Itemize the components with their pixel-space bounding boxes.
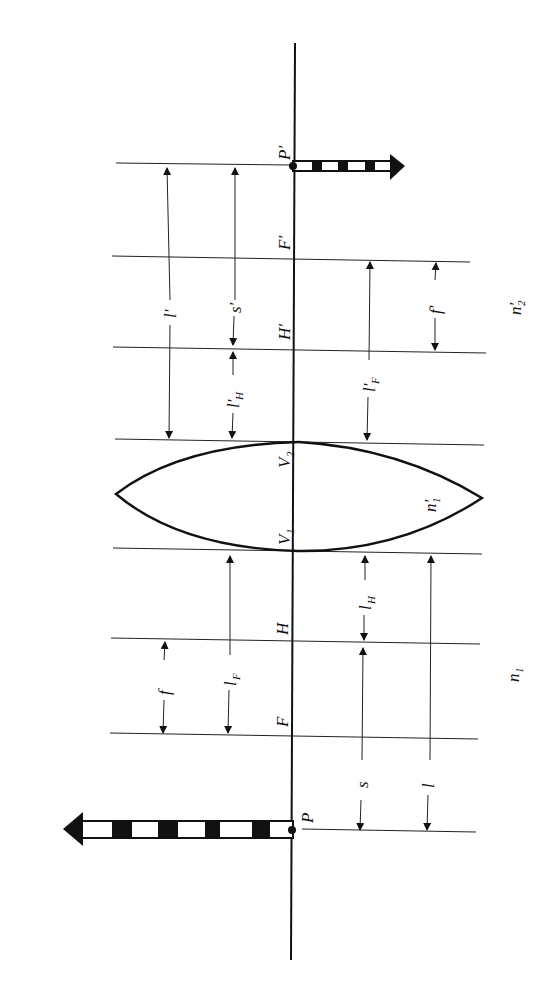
label-V2: V 2 xyxy=(275,451,296,468)
label-l: l xyxy=(419,783,438,788)
line-H-prime xyxy=(113,347,486,353)
line-P xyxy=(302,829,476,832)
image-arrow xyxy=(289,154,405,180)
label-lH-prime-sub: H xyxy=(233,391,245,401)
label-lF-prime-sub: F xyxy=(369,377,381,385)
dim-lH-prime-down xyxy=(232,413,233,438)
label-lF-sub: F xyxy=(230,673,242,681)
label-f-prime: f′ xyxy=(426,305,445,314)
label-lH-sub: H xyxy=(365,595,377,605)
label-n2-prime: n′ 2 xyxy=(506,300,527,315)
label-P: P xyxy=(298,813,317,824)
label-n2-prime-sub: 2 xyxy=(515,300,527,306)
label-H-prime: H′ xyxy=(275,324,294,341)
dim-lF-prime-down xyxy=(367,397,368,440)
label-f: f xyxy=(155,688,174,695)
dim-l-prime-down xyxy=(169,325,170,438)
dim-s-prime-down xyxy=(233,316,234,345)
label-n1-prime: n′ 1 xyxy=(421,498,442,513)
lens-right-surface xyxy=(298,442,482,551)
label-l-prime: l′ xyxy=(161,309,180,318)
line-P-prime xyxy=(116,163,290,165)
label-n1-main: n xyxy=(504,674,523,683)
label-n1-sub: 1 xyxy=(513,668,525,674)
dim-f-down xyxy=(163,700,164,733)
optics-diagram: P′ F′ H′ V 2 V 1 H F P n 1 n′ 1 n′ 2 l′ … xyxy=(0,0,542,1004)
label-V1-sub: 1 xyxy=(284,529,296,535)
label-s: s xyxy=(353,781,372,788)
label-lF: l F xyxy=(221,673,242,686)
dim-l-down xyxy=(427,795,428,830)
label-lH-prime: l′ H xyxy=(224,391,245,408)
dim-lF-prime-up xyxy=(369,262,370,360)
dim-f-prime-up xyxy=(435,263,436,280)
line-H xyxy=(111,638,480,644)
object-arrow xyxy=(63,812,296,846)
dim-l-prime-up xyxy=(167,168,170,300)
dim-s-up xyxy=(362,648,363,760)
label-V2-sub: 2 xyxy=(284,451,296,457)
label-H: H xyxy=(273,621,292,636)
label-lH-main: l xyxy=(356,605,375,610)
label-P-prime: P′ xyxy=(275,146,294,161)
label-lF-prime: l′ F xyxy=(360,377,381,392)
label-F-prime: F′ xyxy=(275,236,294,251)
lens-left-surface xyxy=(116,442,299,551)
label-n1: n 1 xyxy=(504,668,525,683)
label-V1: V 1 xyxy=(275,529,296,546)
label-lF-main: l xyxy=(221,681,240,686)
dim-f-up xyxy=(164,642,165,660)
line-F xyxy=(110,733,478,739)
dim-l-up xyxy=(430,556,431,760)
label-n1-prime-sub: 1 xyxy=(430,498,442,504)
dim-lF-down xyxy=(228,690,229,733)
dim-s-down xyxy=(360,800,361,830)
label-s-prime: s′ xyxy=(226,302,245,313)
label-F: F xyxy=(273,716,292,728)
line-F-prime xyxy=(112,256,470,262)
label-lH: l H xyxy=(356,595,377,610)
